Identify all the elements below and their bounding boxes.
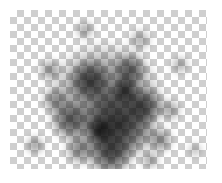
cloud-blob [128, 28, 152, 52]
cloud-blob [86, 116, 114, 144]
layer-preview-canvas [10, 10, 207, 169]
cloud-blob [140, 150, 160, 169]
cloud-blob [68, 58, 112, 102]
cloud-blob [187, 142, 203, 158]
cloud-blob [75, 20, 95, 40]
cloud-blob [38, 58, 62, 82]
cloud-blob [41, 86, 69, 114]
cloud-blob [111, 76, 139, 104]
cloud-blob [170, 55, 190, 75]
cloud-brush-layer [10, 10, 207, 169]
cloud-blob [158, 98, 182, 122]
cloud-blob [25, 135, 45, 155]
